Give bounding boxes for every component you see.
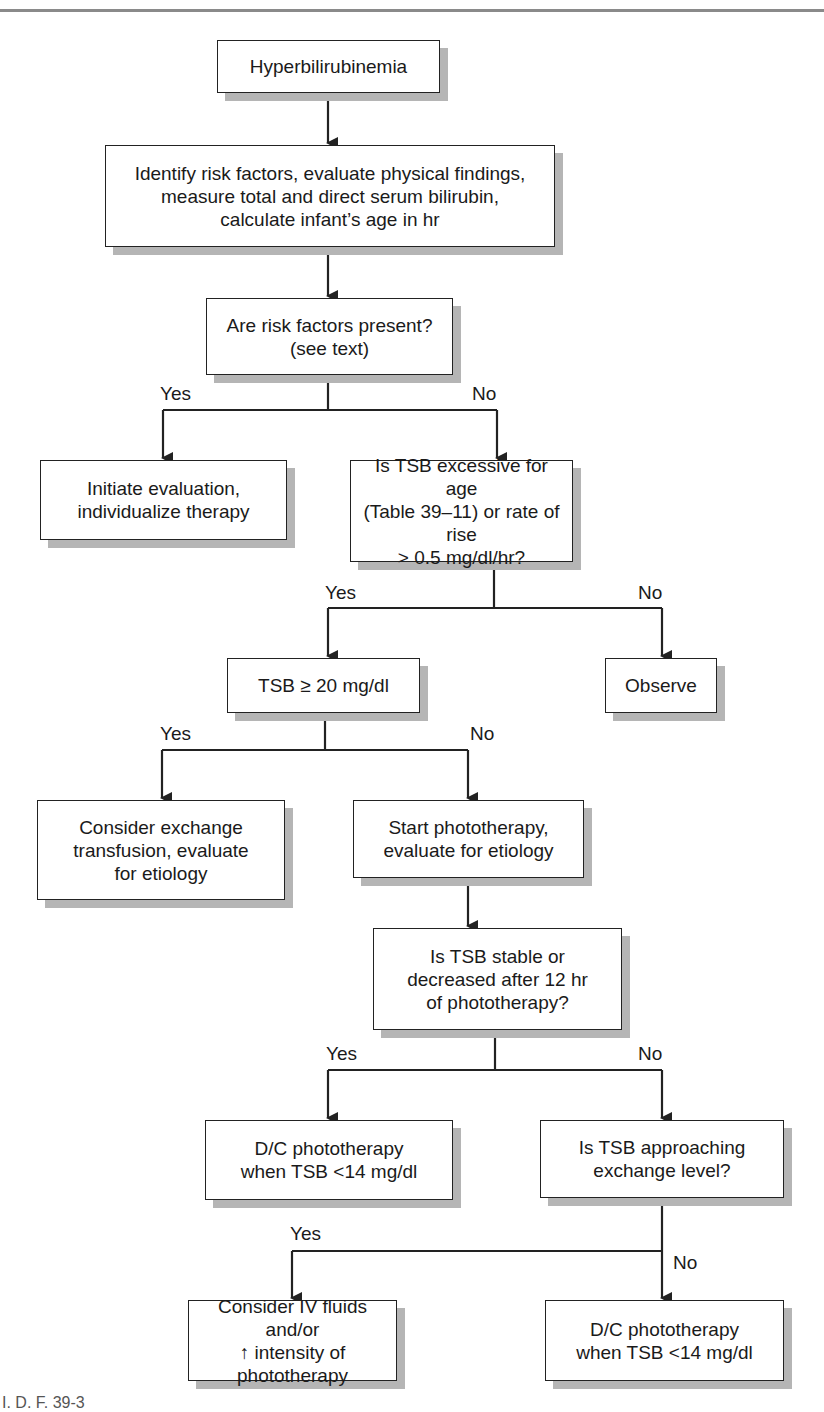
node-dc-phototherapy-no-exchange: D/C phototherapy when TSB <14 mg/dl — [545, 1300, 784, 1381]
branch-label-stable-yes: Yes — [326, 1044, 357, 1064]
branch-label-excessive-no: No — [638, 583, 662, 603]
branch-label-excessive-yes: Yes — [325, 583, 356, 603]
branch-label-approach-yes: Yes — [290, 1224, 321, 1244]
node-risk-factors-present: Are risk factors present? (see text) — [206, 298, 453, 375]
node-dc-phototherapy-stable: D/C phototherapy when TSB <14 mg/dl — [205, 1120, 453, 1200]
node-tsb-stable: Is TSB stable or decreased after 12 hr o… — [373, 928, 622, 1030]
branch-label-ge20-yes: Yes — [160, 724, 191, 744]
branch-label-risk-yes: Yes — [160, 384, 191, 404]
figure-caption-fragment: I. D. F. 39-3 — [2, 1394, 85, 1412]
branch-label-risk-no: No — [472, 384, 496, 404]
node-consider-exchange-transfusion: Consider exchange transfusion, evaluate … — [37, 800, 285, 900]
node-consider-iv-fluids: Consider IV fluids and/or ↑ intensity of… — [188, 1300, 397, 1381]
node-tsb-excessive: Is TSB excessive for age (Table 39–11) o… — [350, 460, 573, 562]
node-observe: Observe — [605, 658, 717, 713]
node-start-phototherapy: Start phototherapy, evaluate for etiolog… — [353, 800, 584, 878]
node-approaching-exchange: Is TSB approaching exchange level? — [540, 1120, 784, 1198]
node-initiate-evaluation: Initiate evaluation, individualize thera… — [40, 460, 287, 540]
branch-label-ge20-no: No — [470, 724, 494, 744]
node-hyperbilirubinemia: Hyperbilirubinemia — [217, 40, 440, 93]
branch-label-approach-no: No — [673, 1253, 697, 1273]
node-tsb-ge-20: TSB ≥ 20 mg/dl — [227, 658, 420, 713]
node-identify-risk-factors: Identify risk factors, evaluate physical… — [105, 145, 555, 247]
branch-label-stable-no: No — [638, 1044, 662, 1064]
